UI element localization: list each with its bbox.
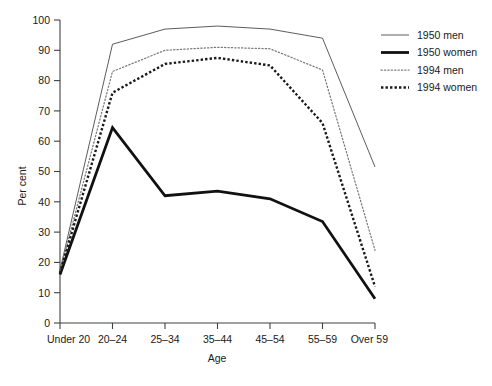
legend-label: 1950 men (417, 29, 464, 41)
y-tick-label: 70 (38, 105, 50, 117)
series-line (60, 26, 375, 270)
y-tick-label: 40 (38, 196, 50, 208)
y-tick-label: 10 (38, 287, 50, 299)
x-tick-label: Over 59 (351, 333, 389, 345)
series-lines-group (60, 26, 375, 299)
y-axis-tick-labels: 0102030405060708090100 (32, 14, 50, 329)
chart-legend: 1950 men1950 women1994 men1994 women (381, 29, 477, 94)
x-axis-title: Age (208, 352, 227, 364)
y-tick-label: 80 (38, 74, 50, 86)
legend-label: 1994 men (417, 64, 464, 76)
y-axis-title: Per cent (16, 166, 28, 205)
series-line (60, 128, 375, 299)
x-axis-tick-labels: Under 2020–2425–3435–4445–5455–59Over 59 (47, 333, 388, 345)
x-axis-ticks (60, 323, 375, 329)
legend-label: 1994 women (417, 81, 477, 93)
x-tick-label: 35–44 (203, 333, 232, 345)
y-tick-label: 90 (38, 44, 50, 56)
chart-container: 0102030405060708090100 Per cent Under 20… (0, 0, 492, 386)
y-tick-label: 30 (38, 226, 50, 238)
y-tick-label: 60 (38, 135, 50, 147)
y-tick-label: 100 (32, 14, 50, 26)
x-tick-label: Under 20 (47, 333, 90, 345)
x-axis-group: Under 2020–2425–3435–4445–5455–59Over 59… (47, 323, 388, 364)
y-tick-label: 0 (44, 317, 50, 329)
x-tick-label: 20–24 (98, 333, 127, 345)
series-line (60, 47, 375, 271)
x-tick-label: 25–34 (150, 333, 179, 345)
line-chart: 0102030405060708090100 Per cent Under 20… (0, 0, 492, 386)
legend-label: 1950 women (417, 46, 477, 58)
y-axis-group: 0102030405060708090100 Per cent (16, 14, 60, 329)
y-axis-ticks (54, 20, 60, 323)
y-tick-label: 20 (38, 256, 50, 268)
x-tick-label: 45–54 (255, 333, 284, 345)
y-tick-label: 50 (38, 165, 50, 177)
x-tick-label: 55–59 (308, 333, 337, 345)
